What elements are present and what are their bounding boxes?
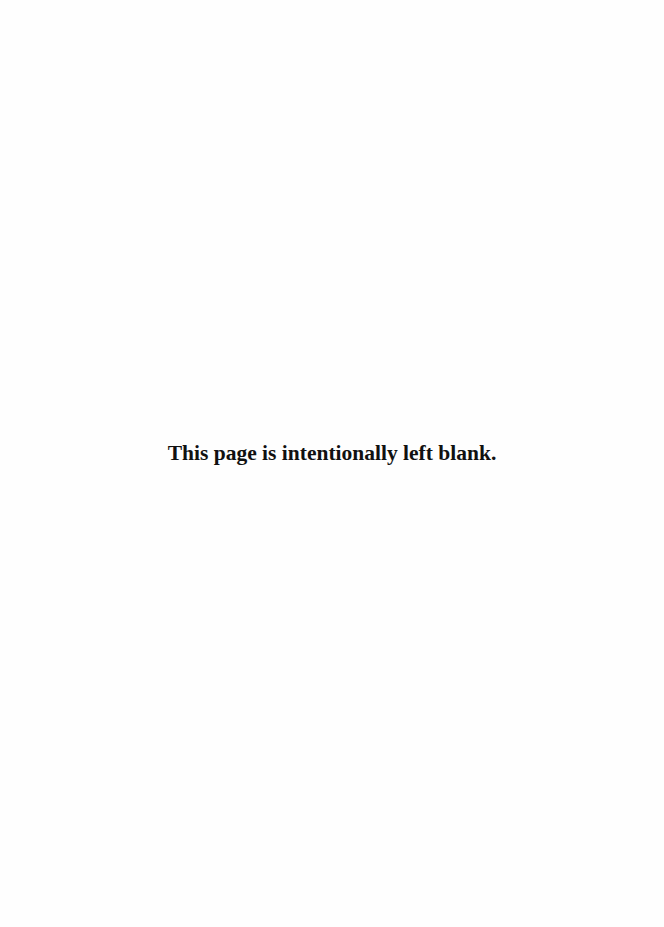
blank-page-notice: This page is intentionally left blank. <box>0 439 664 467</box>
document-page: This page is intentionally left blank. <box>0 0 664 927</box>
